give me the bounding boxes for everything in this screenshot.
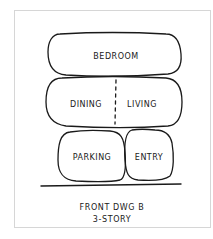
parking-label: PARKING [73,153,112,162]
bedroom-label: BEDROOM [93,52,138,61]
caption-subtitle: 3-STORY [93,215,131,224]
dining-label: DINING [70,100,102,109]
ground-line [41,184,181,186]
dining-living-bubble [46,77,182,128]
caption-title: FRONT DWG B [80,203,145,212]
entry-label: ENTRY [135,153,163,162]
room-divider [115,80,116,124]
living-label: LIVING [127,100,157,109]
